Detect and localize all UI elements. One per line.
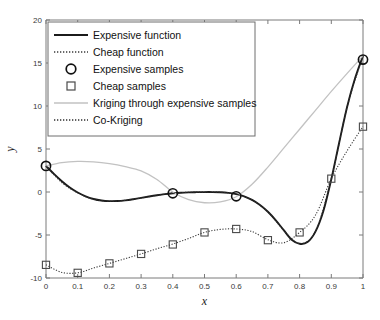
y-axis-title: y <box>3 146 17 153</box>
legend-label: Cheap samples <box>93 80 166 92</box>
x-tick-label: 0 <box>44 282 49 291</box>
legend-label: Co-Kriging <box>93 114 143 126</box>
x-tick-label: 0.8 <box>294 282 306 291</box>
legend-label: Cheap function <box>93 46 164 58</box>
y-tick-label: -10 <box>30 274 42 283</box>
y-tick-label: 5 <box>38 145 43 154</box>
legend-label: Expensive samples <box>93 63 183 75</box>
legend-label: Kriging through expensive samples <box>93 97 256 109</box>
x-axis-title: x <box>201 294 208 308</box>
y-tick-label: 15 <box>33 59 42 68</box>
x-tick-label: 0.2 <box>104 282 116 291</box>
y-tick-label: 10 <box>33 102 42 111</box>
x-tick-label: 0.1 <box>72 282 84 291</box>
figure-container: 00.10.20.30.40.50.60.70.80.91 -10-505101… <box>0 0 380 320</box>
x-tick-label: 1 <box>361 282 366 291</box>
x-tick-label: 0.6 <box>231 282 243 291</box>
y-tick-label: -5 <box>35 231 43 240</box>
x-tick-label: 0.9 <box>326 282 338 291</box>
y-tick-label: 0 <box>38 188 43 197</box>
legend-label: Expensive function <box>93 29 181 41</box>
y-tick-label: 20 <box>33 16 42 25</box>
x-tick-label: 0.4 <box>167 282 179 291</box>
x-tick-label: 0.7 <box>262 282 274 291</box>
x-tick-label: 0.3 <box>136 282 148 291</box>
chart-svg: 00.10.20.30.40.50.60.70.80.91 -10-505101… <box>0 0 380 320</box>
chart-legend: Expensive functionCheap functionExpensiv… <box>48 22 256 136</box>
x-tick-label: 0.5 <box>199 282 211 291</box>
